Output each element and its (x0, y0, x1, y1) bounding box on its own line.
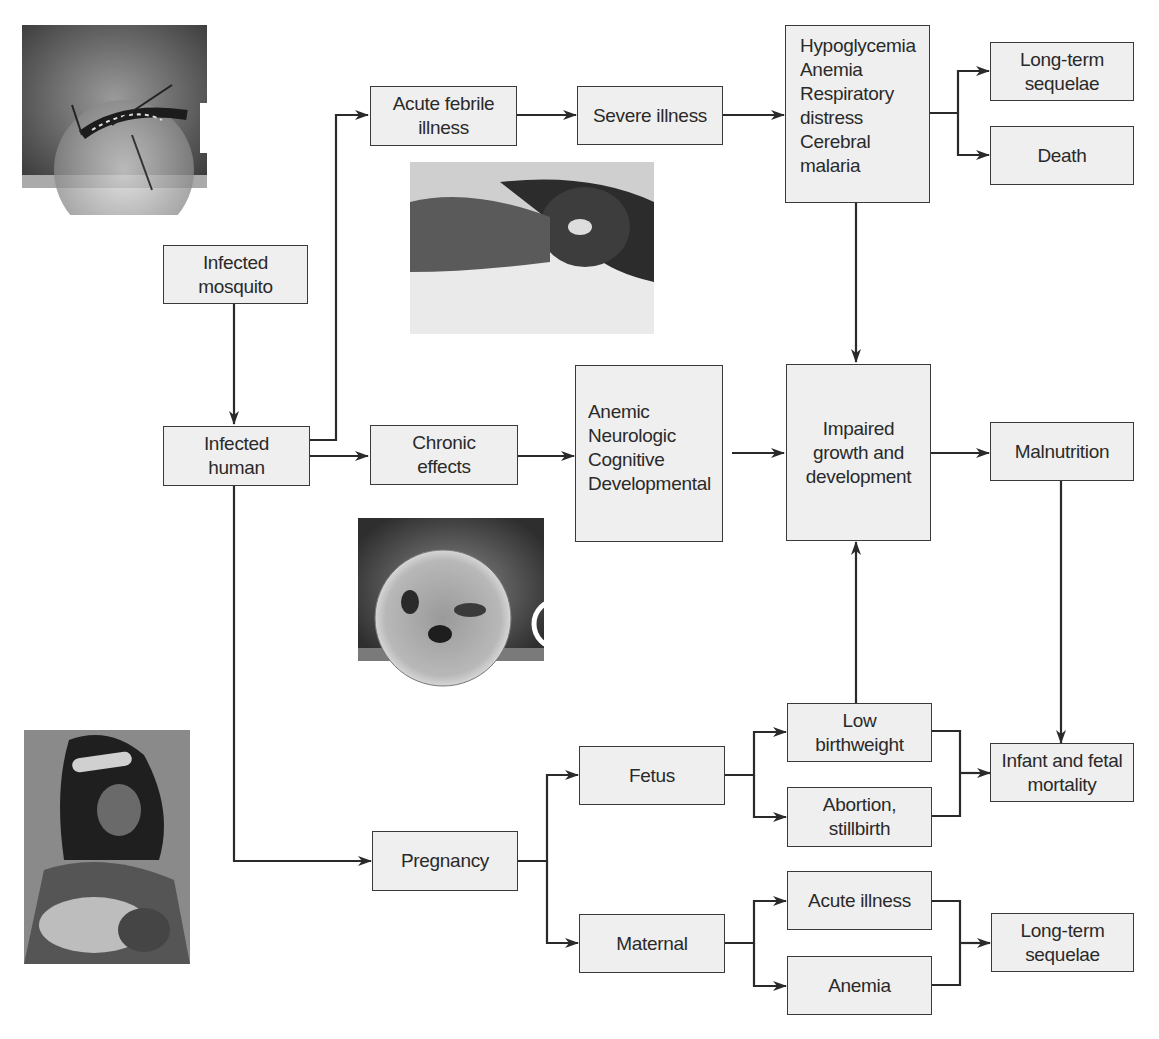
node-impaired-growth: Impaired growth and development (786, 364, 931, 541)
node-acute-febrile-illness: Acute febrile illness (370, 86, 517, 146)
node-low-birthweight: Low birthweight (787, 703, 932, 762)
node-label: Malnutrition (1015, 440, 1110, 464)
node-infected-human: Infected human (163, 426, 310, 486)
node-label: Hypoglycemia Anemia Respiratory distress… (800, 34, 916, 178)
node-label: Impaired growth and development (806, 417, 912, 489)
node-acute-illness: Acute illness (787, 871, 932, 930)
node-maternal: Maternal (579, 914, 725, 973)
node-malnutrition: Malnutrition (990, 422, 1134, 481)
node-label: Pregnancy (401, 849, 489, 873)
node-abortion-stillbirth: Abortion, stillbirth (787, 787, 932, 847)
node-chronic-outcomes: Anemic Neurologic Cognitive Developmenta… (575, 365, 723, 542)
node-label: Maternal (616, 932, 688, 956)
node-label: Infected mosquito (198, 251, 273, 299)
node-long-term-sequelae-top: Long-term sequelae (990, 42, 1134, 101)
node-label: Fetus (629, 764, 675, 788)
node-label: Chronic effects (412, 431, 475, 479)
node-label: Death (1037, 144, 1086, 168)
node-label: Infant and fetal mortality (1002, 749, 1123, 797)
node-death: Death (990, 126, 1134, 185)
node-pregnancy: Pregnancy (372, 831, 518, 891)
node-infected-mosquito: Infected mosquito (163, 245, 308, 304)
node-long-term-sequelae-bottom: Long-term sequelae (991, 913, 1134, 972)
node-label: Infected human (204, 432, 269, 480)
node-label: Severe illness (593, 104, 707, 128)
node-anemia: Anemia (787, 956, 932, 1015)
node-severe-illness: Severe illness (577, 86, 723, 145)
node-label: Long-term sequelae (1021, 919, 1105, 967)
node-label: Abortion, stillbirth (823, 793, 896, 841)
node-label: Low birthweight (815, 709, 904, 757)
node-label: Anemia (828, 974, 891, 998)
node-label: Acute illness (808, 889, 911, 913)
node-fetus: Fetus (579, 746, 725, 805)
node-infant-fetal-mortality: Infant and fetal mortality (990, 743, 1134, 802)
node-label: Acute febrile illness (393, 92, 495, 140)
node-label: Long-term sequelae (1020, 48, 1104, 96)
node-severe-complications: Hypoglycemia Anemia Respiratory distress… (785, 25, 930, 203)
node-label: Anemic Neurologic Cognitive Developmenta… (588, 400, 711, 496)
node-chronic-effects: Chronic effects (370, 425, 518, 485)
